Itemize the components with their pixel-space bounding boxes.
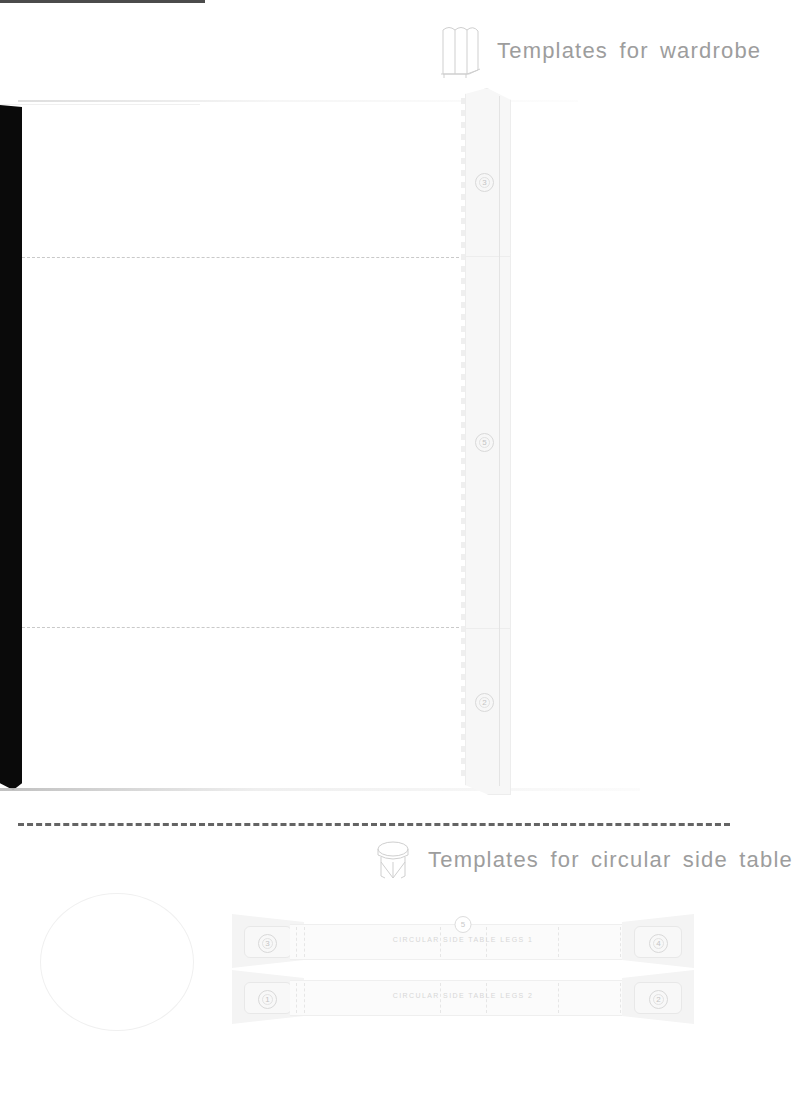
fold-line-lower xyxy=(22,627,474,628)
strip-segment-bottom xyxy=(465,628,511,795)
leg-strip-2-right-tab: 2 xyxy=(622,970,694,1024)
leg-strip-2-right-tab-marker: 2 xyxy=(649,990,668,1009)
leg-strip-2-left-tab-number: 1 xyxy=(265,995,269,1004)
fold-line-upper xyxy=(22,257,474,258)
leg-strip-1-label: CIRCULAR SIDE TABLE LEGS 1 xyxy=(290,936,636,943)
strip-marker-2: 5 xyxy=(475,433,494,452)
page-edge-shadow-bottom xyxy=(0,788,640,791)
leg-strip-2: 1 CIRCULAR SIDE TABLE LEGS 2 2 xyxy=(232,968,694,1026)
paper-surface xyxy=(22,105,722,790)
scan-top-dark-edge xyxy=(0,0,205,3)
table-section-heading: Templates for circular side table xyxy=(372,838,793,882)
leg-strip-2-right-tab-number: 2 xyxy=(656,995,660,1004)
circular-table-top-outline xyxy=(40,893,194,1031)
leg-strip-1: 3 CIRCULAR SIDE TABLE LEGS 1 5 4 xyxy=(232,912,694,970)
leg-strip-1-center-marker: 5 xyxy=(455,916,472,933)
leg-strip-2-left-tab-marker: 1 xyxy=(258,990,277,1009)
leg-strip-1-center-number: 5 xyxy=(461,920,465,929)
strip-marker-1: 3 xyxy=(475,173,494,192)
side-table-icon xyxy=(372,838,414,882)
leg-strip-1-left-tab-marker: 3 xyxy=(258,934,277,953)
strip-marker-3: 2 xyxy=(475,693,494,712)
scan-top-page-corner xyxy=(0,0,200,104)
wardrobe-template-strip: 3 5 2 xyxy=(455,88,515,793)
leg-strip-2-label: CIRCULAR SIDE TABLE LEGS 2 xyxy=(290,992,636,999)
strip-marker-1-number: 3 xyxy=(482,178,486,187)
leg-strip-1-right-tab: 4 xyxy=(622,914,694,968)
leg-strip-1-right-tab-number: 4 xyxy=(656,939,660,948)
scan-black-edge xyxy=(0,105,22,790)
cut-separator-line xyxy=(18,823,730,826)
leg-strip-1-right-tab-marker: 4 xyxy=(649,934,668,953)
leg-strip-2-bar: CIRCULAR SIDE TABLE LEGS 2 xyxy=(290,980,636,1016)
wardrobe-section-heading: Templates for wardrobe xyxy=(437,22,761,80)
table-heading-text: Templates for circular side table xyxy=(428,847,793,873)
leg-strip-1-bar: CIRCULAR SIDE TABLE LEGS 1 5 xyxy=(290,924,636,960)
wardrobe-heading-text: Templates for wardrobe xyxy=(497,38,761,64)
strip-marker-3-number: 2 xyxy=(482,698,486,707)
wardrobe-icon xyxy=(437,22,483,80)
leg-strip-1-left-tab-number: 3 xyxy=(265,939,269,948)
strip-score-line xyxy=(499,96,500,786)
strip-marker-2-number: 5 xyxy=(482,438,486,447)
